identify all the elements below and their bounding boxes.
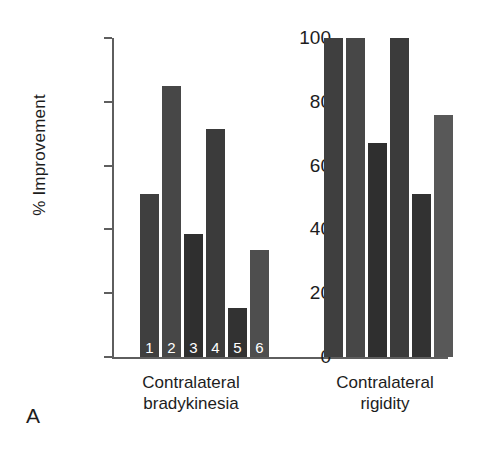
bar-rigidity-2 <box>346 38 365 357</box>
group-label-line-0: Contralateral <box>96 372 286 393</box>
group-label-rigidity: Contralateralrigidity <box>290 372 480 415</box>
y-tick-mark-60 <box>104 165 112 167</box>
bar-number-label: 2 <box>162 340 181 355</box>
plot-area: 020406080100 123456 <box>112 38 447 357</box>
y-tick-mark-80 <box>104 101 112 103</box>
y-tick-mark-0 <box>104 356 112 358</box>
y-axis-title: % Improvement <box>30 55 50 255</box>
bar-number-label: 4 <box>206 340 225 355</box>
y-tick-label-20: 20 <box>271 283 331 302</box>
figure-panel-a: % Improvement 020406080100 123456 Contra… <box>0 0 502 455</box>
group-label-bradykinesia: Contralateralbradykinesia <box>96 372 286 415</box>
group-label-line-0: Contralateral <box>290 372 480 393</box>
group-label-line-1: rigidity <box>290 393 480 414</box>
y-tick-mark-100 <box>104 37 112 39</box>
bar-bradykinesia-4: 4 <box>206 129 225 357</box>
y-tick-mark-40 <box>104 228 112 230</box>
y-axis-line <box>112 38 114 358</box>
bar-bradykinesia-5: 5 <box>228 308 247 357</box>
y-tick-label-80: 80 <box>271 92 331 111</box>
bar-bradykinesia-2: 2 <box>162 86 181 357</box>
bar-bradykinesia-6: 6 <box>250 250 269 357</box>
bar-rigidity-6 <box>434 115 453 357</box>
y-tick-label-100: 100 <box>271 28 331 47</box>
y-tick-label-0: 0 <box>271 347 331 366</box>
panel-label: A <box>26 404 40 428</box>
bar-rigidity-1 <box>324 38 343 357</box>
bar-number-label: 3 <box>184 340 203 355</box>
bar-number-label: 5 <box>228 340 247 355</box>
bar-rigidity-3 <box>368 143 387 357</box>
bar-rigidity-5 <box>412 194 431 357</box>
bar-bradykinesia-3: 3 <box>184 234 203 357</box>
bar-bradykinesia-1: 1 <box>140 194 159 357</box>
bar-number-label: 1 <box>140 340 159 355</box>
y-tick-mark-20 <box>104 292 112 294</box>
bar-rigidity-4 <box>390 38 409 357</box>
group-label-line-1: bradykinesia <box>96 393 286 414</box>
y-tick-label-60: 60 <box>271 156 331 175</box>
y-tick-label-40: 40 <box>271 219 331 238</box>
bar-number-label: 6 <box>250 340 269 355</box>
